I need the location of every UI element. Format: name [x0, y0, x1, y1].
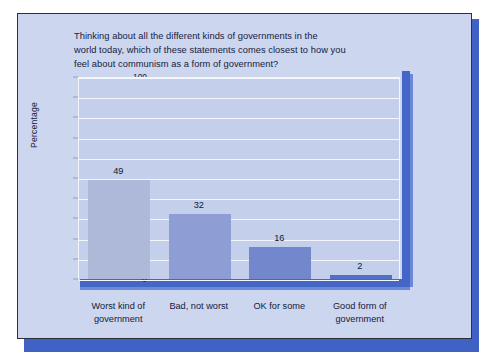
plot-area-wrapper — [78, 77, 400, 279]
bar-value-label: 49 — [88, 166, 148, 176]
gridline — [79, 78, 399, 79]
bar[interactable] — [169, 214, 231, 279]
bar[interactable] — [88, 180, 150, 279]
plot-floor-highlight — [80, 287, 410, 290]
gridline — [79, 139, 399, 140]
bar[interactable] — [330, 275, 392, 279]
x-axis-label-line: Good form of — [312, 300, 408, 313]
chart-title: Thinking about all the different kinds o… — [74, 29, 444, 72]
y-axis-title: Percentage — [29, 102, 39, 148]
bar-value-label: 32 — [169, 200, 229, 210]
plot-right-wall — [402, 71, 410, 287]
gridline — [79, 280, 399, 281]
gridline — [79, 159, 399, 160]
chart-panel: Thinking about all the different kinds o… — [17, 13, 472, 339]
bar[interactable] — [249, 247, 311, 279]
x-axis-category-label: Good form ofgovernment — [312, 300, 408, 325]
bar-value-label: 16 — [249, 233, 309, 243]
chart-title-line-3: feel about communism as a form of govern… — [74, 57, 444, 71]
gridline — [79, 118, 399, 119]
x-axis-label-line: government — [312, 313, 408, 326]
gridline — [79, 98, 399, 99]
plot-area — [78, 77, 400, 279]
plot-right-wall-highlight — [410, 74, 413, 287]
bar-value-label: 2 — [330, 261, 390, 271]
x-axis-label-line: government — [70, 313, 166, 326]
figure-root: Thinking about all the different kinds o… — [0, 0, 495, 364]
chart-title-line-2: world today, which of these statements c… — [74, 43, 444, 57]
chart-title-line-1: Thinking about all the different kinds o… — [74, 29, 444, 43]
